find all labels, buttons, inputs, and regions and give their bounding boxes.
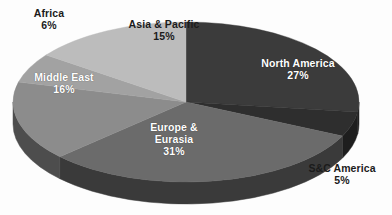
pie-chart: Africa 6% Asia & Pacific 15% North Ameri… (0, 0, 392, 215)
pie-slice-north-america[interactable] (186, 22, 359, 112)
pie-chart-canvas (0, 0, 392, 215)
pie-top-face (13, 22, 359, 182)
